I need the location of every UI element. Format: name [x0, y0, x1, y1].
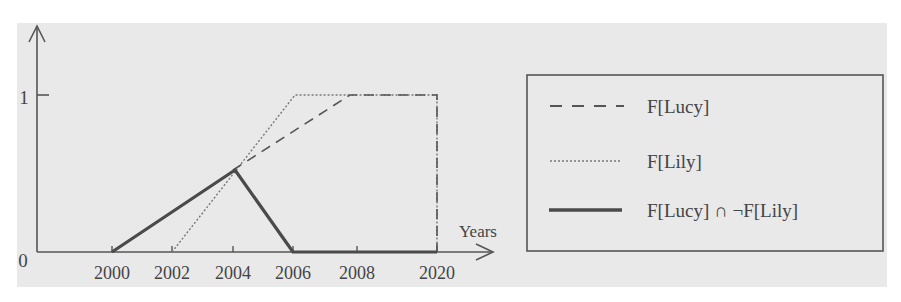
y-tick-label-0: 0: [18, 250, 28, 271]
legend: F[Lucy] F[Lily] F[Lucy] ∩ ¬F[Lily]: [527, 75, 883, 251]
y-axis: [29, 26, 49, 252]
series-lily: [172, 95, 437, 252]
x-tick-label: 2002: [154, 263, 190, 283]
fuzzy-membership-chart: 1 0 2000 2002 2004 2006 2008 2020 Years …: [0, 0, 901, 302]
series-lucy-and-not-lily: [112, 170, 437, 252]
x-tick-label: 2020: [419, 263, 455, 283]
x-tick-label: 2004: [215, 263, 251, 283]
x-axis-label: Years: [459, 222, 497, 241]
legend-label-lucy-and-not-lily: F[Lucy] ∩ ¬F[Lily]: [647, 200, 798, 221]
x-tick-label: 2000: [94, 263, 130, 283]
x-tick-label: 2008: [339, 263, 375, 283]
legend-label-lily: F[Lily]: [647, 151, 702, 172]
legend-label-lucy: F[Lucy]: [647, 96, 709, 117]
y-tick-label-1: 1: [19, 87, 29, 108]
series-lucy: [233, 95, 437, 252]
x-tick-label: 2006: [275, 263, 311, 283]
